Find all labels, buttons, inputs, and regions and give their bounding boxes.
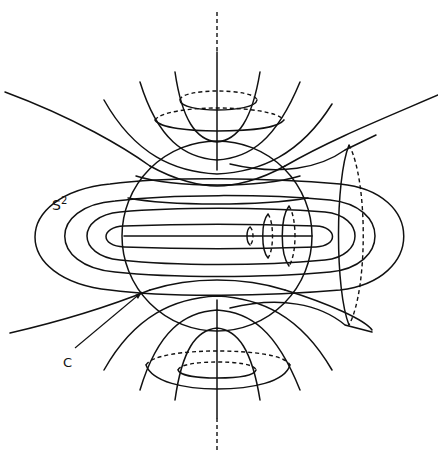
- lower-parabolas: [104, 296, 332, 400]
- sphere-label: S2: [52, 195, 67, 213]
- upper-ellipses: [155, 91, 284, 131]
- lower-ellipses: [146, 351, 290, 389]
- circle-label: C: [63, 355, 72, 370]
- hyperbolic-curves-lower: [10, 280, 372, 333]
- diagram-canvas: S2 C: [0, 0, 438, 462]
- right-ellipse: [339, 145, 364, 325]
- hyperbolic-curves-upper: [5, 92, 438, 186]
- circle-c-pointer: [75, 292, 142, 348]
- upper-field-lines: [128, 176, 308, 204]
- level-curves: [35, 179, 404, 296]
- diagram-figure: S2 C: [0, 0, 438, 462]
